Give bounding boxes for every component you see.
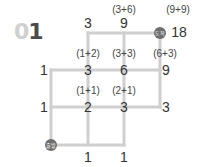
- sum-row2-b: (3+3): [112, 49, 136, 59]
- value-row2-a: 3: [84, 63, 92, 77]
- sum-row2-c: (6+3): [153, 49, 177, 59]
- value-bottom-a: 1: [84, 150, 92, 164]
- value-end: 18: [171, 25, 187, 39]
- sum-row3-b: (2+1): [112, 86, 136, 96]
- value-row3-b: 3: [120, 100, 128, 114]
- sum-row2-a: (1+2): [76, 49, 100, 59]
- value-row2-left: 1: [40, 63, 48, 77]
- value-row3-a: 2: [84, 100, 92, 114]
- value-top-left: 3: [84, 16, 92, 30]
- value-row2-c: 9: [162, 63, 170, 77]
- sum-end: (9+9): [166, 5, 190, 15]
- value-row2-b: 6: [120, 63, 128, 77]
- end-marker: 도착: [154, 27, 166, 39]
- value-row3-left: 1: [40, 100, 48, 114]
- sum-top-mid: (3+6): [112, 5, 136, 15]
- value-bottom-b: 1: [120, 150, 128, 164]
- value-top-mid: 9: [120, 16, 128, 30]
- sum-row3-a: (1+1): [76, 86, 100, 96]
- start-marker: 출발: [45, 139, 57, 151]
- value-row3-right: 3: [162, 100, 170, 114]
